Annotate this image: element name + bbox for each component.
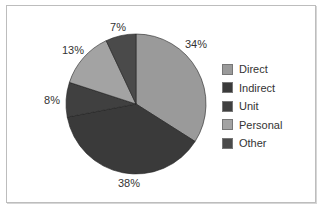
slice-label-other: 7% bbox=[110, 21, 126, 33]
slice-label-indirect: 38% bbox=[118, 177, 140, 189]
legend-item-indirect: Indirect bbox=[222, 79, 282, 98]
legend-swatch-other bbox=[222, 138, 233, 149]
legend-item-other: Other bbox=[222, 134, 282, 153]
legend-swatch-indirect bbox=[222, 82, 233, 93]
legend-swatch-unit bbox=[222, 101, 233, 112]
legend-label-other: Other bbox=[239, 137, 267, 149]
legend-item-unit: Unit bbox=[222, 97, 282, 116]
slice-label-personal: 13% bbox=[62, 44, 84, 56]
legend-item-personal: Personal bbox=[222, 116, 282, 135]
pie-slices bbox=[66, 34, 206, 174]
legend-label-unit: Unit bbox=[239, 100, 259, 112]
slice-label-unit: 8% bbox=[44, 94, 60, 106]
legend-label-indirect: Indirect bbox=[239, 82, 275, 94]
legend-item-direct: Direct bbox=[222, 60, 282, 79]
slice-label-direct: 34% bbox=[185, 38, 207, 50]
legend: Direct Indirect Unit Personal Other bbox=[222, 60, 282, 153]
legend-label-direct: Direct bbox=[239, 63, 268, 75]
legend-label-personal: Personal bbox=[239, 119, 282, 131]
legend-swatch-direct bbox=[222, 64, 233, 75]
legend-swatch-personal bbox=[222, 119, 233, 130]
